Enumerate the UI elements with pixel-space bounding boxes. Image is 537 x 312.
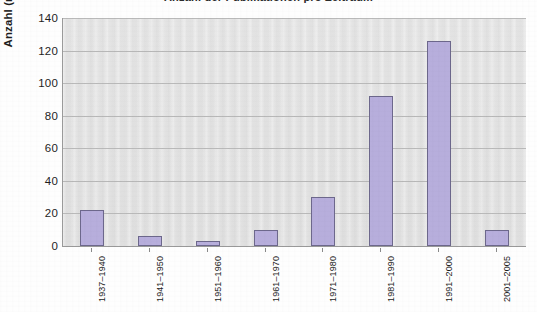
x-axis-tick-label: 1981–1990 bbox=[385, 256, 398, 312]
x-axis-tick-label: 1941–1950 bbox=[154, 256, 167, 312]
x-axis-tick-labels: 1937–19401941–19501951–19601961–19701971… bbox=[62, 248, 525, 312]
bar bbox=[485, 230, 509, 246]
x-axis-tick-label: 2001–2005 bbox=[501, 256, 514, 312]
x-axis-tick-mark bbox=[322, 248, 323, 252]
y-axis-tick-label: 20 bbox=[20, 208, 58, 218]
x-axis-tick-label: 1937–1940 bbox=[96, 256, 109, 312]
x-axis-tick-label: 1991–2000 bbox=[443, 256, 456, 312]
x-axis-tick-mark bbox=[438, 248, 439, 252]
bar bbox=[427, 41, 451, 246]
y-axis-tick-label: 0 bbox=[20, 241, 58, 251]
x-axis-tick-label: 1961–1970 bbox=[270, 256, 283, 312]
bars-layer bbox=[63, 18, 526, 246]
y-axis-title: Anzahl (n=292) bbox=[0, 0, 16, 76]
y-axis-tick-label: 40 bbox=[20, 176, 58, 186]
y-axis-tick-label: 60 bbox=[20, 143, 58, 153]
bar-chart-figure: Anzahl der Publikationen pro Zeitraum An… bbox=[0, 0, 537, 312]
bar bbox=[80, 210, 104, 246]
x-axis-tick-label: 1951–1960 bbox=[212, 256, 225, 312]
bar bbox=[254, 230, 278, 246]
bar bbox=[369, 96, 393, 246]
x-axis-tick-mark bbox=[265, 248, 266, 252]
x-axis-tick-mark bbox=[496, 248, 497, 252]
chart-title: Anzahl der Publikationen pro Zeitraum bbox=[0, 0, 537, 3]
y-axis-tick-labels: 020406080100120140 bbox=[20, 18, 58, 246]
y-axis-tick-label: 80 bbox=[20, 111, 58, 121]
x-axis-tick-mark bbox=[207, 248, 208, 252]
y-axis-tick-label: 120 bbox=[20, 46, 58, 56]
bar bbox=[138, 236, 162, 246]
y-axis-tick-label: 140 bbox=[20, 13, 58, 23]
y-axis-tick-label: 100 bbox=[20, 78, 58, 88]
x-axis-tick-mark bbox=[149, 248, 150, 252]
x-axis-tick-mark bbox=[91, 248, 92, 252]
bar bbox=[196, 241, 220, 246]
bar bbox=[311, 197, 335, 246]
plot-area bbox=[62, 18, 526, 247]
x-axis-tick-label: 1971–1980 bbox=[327, 256, 340, 312]
x-axis-tick-mark bbox=[380, 248, 381, 252]
